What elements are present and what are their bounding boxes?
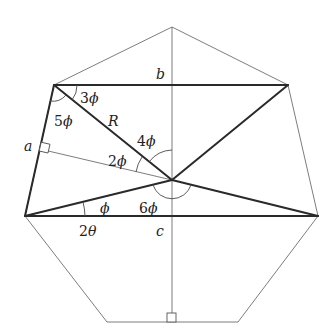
label-c: c bbox=[156, 223, 164, 239]
heptagon-diagram: b a c R 3ϕ 5ϕ 4ϕ 2ϕ ϕ 6ϕ 2θ bbox=[0, 0, 335, 336]
arc-2phi bbox=[136, 157, 142, 172]
heptagon-outline bbox=[25, 27, 318, 322]
label-6phi: 6ϕ bbox=[139, 200, 158, 216]
arc-phi bbox=[83, 202, 85, 216]
label-R: R bbox=[107, 113, 119, 129]
label-a: a bbox=[24, 138, 32, 154]
right-angle-marker-bottom bbox=[167, 313, 176, 322]
label-b: b bbox=[156, 66, 165, 82]
label-2phi: 2ϕ bbox=[108, 153, 127, 169]
arc-3phi bbox=[72, 85, 77, 100]
right-angle-marker-a bbox=[39, 142, 50, 153]
diagonal-center-to-upper-right bbox=[172, 85, 288, 180]
label-phi: ϕ bbox=[100, 200, 110, 216]
diagonal-center-to-lower-right bbox=[172, 180, 318, 216]
label-5phi: 5ϕ bbox=[54, 113, 73, 129]
label-4phi: 4ϕ bbox=[137, 133, 156, 149]
label-3phi: 3ϕ bbox=[80, 90, 99, 106]
arc-4phi bbox=[149, 150, 172, 162]
label-2theta: 2θ bbox=[79, 223, 97, 239]
